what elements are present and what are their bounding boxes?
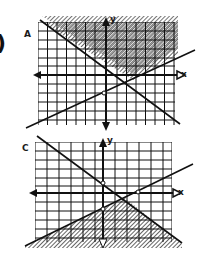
graph-c-point (101, 207, 105, 211)
graph-a-x-axis-label: x (181, 69, 187, 79)
graph-c-label: C (22, 143, 29, 153)
graph-a-label: A (24, 29, 31, 39)
graph-c-x-axis-left-arrow-icon (29, 189, 37, 197)
graph-a-y-axis-down-arrow-icon (102, 122, 110, 131)
graph-c-y-axis-label: y (107, 135, 113, 145)
graph-c-x-axis-label: x (178, 187, 184, 197)
graph-c (25, 136, 193, 248)
graph-a-point (102, 91, 106, 95)
graph-c-point (136, 190, 140, 194)
graph-a (26, 16, 195, 131)
graph-a-x-axis-left-arrow-icon (33, 71, 41, 79)
graph-a-y-axis-label: y (110, 14, 116, 24)
graph-c-point (101, 181, 105, 185)
graphs-canvas (0, 0, 212, 260)
inequality-graphs-figure: ) (0, 0, 212, 260)
